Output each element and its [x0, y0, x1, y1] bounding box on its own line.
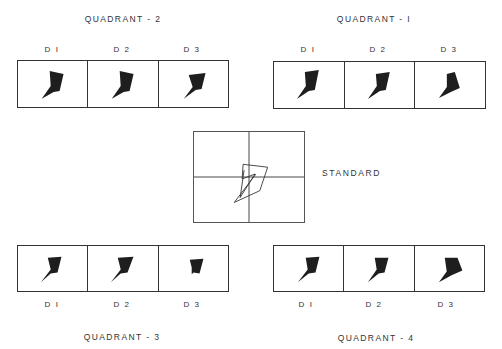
figure-icon [345, 62, 415, 108]
q3-d3-label: D 3 [183, 300, 200, 309]
figure-icon [159, 246, 228, 291]
figure-icon [415, 62, 485, 108]
figure-icon [18, 246, 87, 291]
figure-icon [88, 61, 157, 107]
q4-d3-label: D 3 [437, 300, 454, 309]
quadrant-3-title: QUADRANT - 3 [84, 332, 161, 342]
q1-d2-label: D 2 [369, 45, 386, 54]
q2-d1-label: D I [44, 45, 59, 54]
figure-icon [274, 246, 343, 291]
standard-label: STANDARD [322, 168, 381, 178]
q1-d1-label: D I [300, 45, 315, 54]
q2-d2-label: D 2 [113, 45, 130, 54]
figure-icon [18, 61, 87, 107]
q4-d1-label: D I [298, 300, 313, 309]
q3-d2-cell [88, 246, 158, 291]
q4-d2-label: D 2 [365, 300, 382, 309]
quadrant-2-title: QUADRANT - 2 [85, 14, 162, 24]
quadrant-2-strip [17, 60, 229, 108]
figure-icon [159, 61, 228, 107]
q1-d3-cell [415, 62, 485, 108]
q1-d1-cell [274, 62, 345, 108]
q3-d3-cell [159, 246, 228, 291]
quadrant-3-strip [17, 245, 229, 292]
figure-icon [344, 246, 413, 291]
q3-d2-label: D 2 [113, 300, 130, 309]
quadrant-4-strip [273, 245, 485, 292]
q2-d3-label: D 3 [183, 45, 200, 54]
quadrant-1-title: QUADRANT - I [337, 14, 411, 24]
q3-d1-label: D I [44, 300, 59, 309]
q1-d2-cell [345, 62, 416, 108]
q3-d1-cell [18, 246, 88, 291]
q4-d3-cell [415, 246, 484, 291]
q4-d1-cell [274, 246, 344, 291]
q1-d3-label: D 3 [440, 45, 457, 54]
figure-icon [274, 62, 344, 108]
standard-outline-icon [194, 132, 304, 222]
standard-figure [193, 131, 305, 223]
q4-d2-cell [344, 246, 414, 291]
q2-d2-cell [88, 61, 158, 107]
quadrant-4-title: QUADRANT - 4 [338, 333, 415, 343]
q2-d1-cell [18, 61, 88, 107]
figure-icon [415, 246, 484, 291]
q2-d3-cell [159, 61, 228, 107]
quadrant-1-strip [273, 61, 486, 109]
figure-icon [88, 246, 157, 291]
